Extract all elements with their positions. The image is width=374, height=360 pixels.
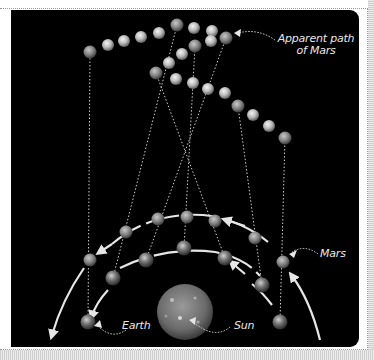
apparent-mars-sphere (163, 57, 175, 69)
apparent-mars-labeled (150, 67, 163, 80)
apparent-mars-sphere (102, 39, 114, 51)
sun-label: Sun (234, 320, 254, 332)
mars-planet (277, 256, 290, 269)
earth-planet (106, 271, 121, 286)
apparent-mars-sphere (153, 27, 165, 39)
apparent-path (84, 19, 292, 145)
apparent-path-label-line2: of Mars (276, 45, 356, 57)
apparent-mars-sphere (219, 87, 231, 99)
apparent-path-callout (238, 32, 275, 40)
apparent-mars-labeled (232, 100, 245, 113)
mars-callout-arrow-icon (289, 250, 297, 258)
apparent-mars-sphere (247, 109, 259, 121)
mars-planet (249, 232, 262, 245)
apparent-mars-labeled (84, 46, 97, 59)
earth-planet (218, 251, 233, 266)
apparent-mars-sphere (118, 35, 130, 47)
mars-planet (120, 226, 133, 239)
apparent-mars-labeled (279, 132, 292, 145)
mars-planet (152, 213, 165, 226)
apparent-mars-labeled (220, 32, 233, 45)
earth-label: Earth (122, 320, 151, 332)
mars-planet (181, 211, 194, 224)
apparent-mars-sphere (135, 31, 147, 43)
earth-planet (273, 315, 288, 330)
sun (157, 284, 213, 340)
mars-label: Mars (320, 248, 346, 260)
apparent-mars-sphere (176, 48, 188, 60)
apparent-mars-sphere (263, 120, 275, 132)
earth-planet (177, 241, 192, 256)
apparent-mars-sphere (202, 83, 214, 95)
apparent-path-callout-arrow-icon (234, 29, 241, 37)
mars-planet (209, 215, 222, 228)
apparent-path-label: Apparent path of Mars (276, 33, 356, 57)
apparent-mars-sphere (188, 22, 200, 34)
earth-planet (81, 315, 96, 330)
earth-planet (255, 278, 270, 293)
apparent-mars-sphere (170, 73, 182, 85)
apparent-mars-labeled (171, 19, 184, 32)
apparent-mars-labeled (189, 40, 202, 53)
earth-planet (139, 253, 154, 268)
apparent-mars-sphere (187, 77, 199, 89)
apparent-mars-sphere (205, 35, 217, 47)
sun-sphere (157, 284, 213, 340)
mars-planet (84, 254, 97, 267)
